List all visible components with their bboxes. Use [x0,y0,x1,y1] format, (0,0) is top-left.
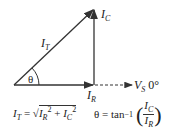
it-vector [14,10,93,85]
it-label: IT [41,37,49,52]
theta-formula: θ = tan−1 ( IC IR ) [94,100,162,127]
it-formula: IT = √IR2 + IC2 [13,106,76,122]
ic-label: IC [101,8,110,23]
vs-label: VS 0° [134,79,159,94]
theta-label: θ [28,74,33,85]
